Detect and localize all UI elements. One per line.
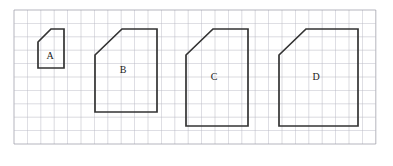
graph-paper-figure: ABCD	[0, 0, 393, 166]
shape-b-label: B	[120, 64, 127, 75]
shape-a-label: A	[46, 50, 54, 61]
shape-d-label: D	[312, 71, 319, 82]
grid-layer	[14, 10, 376, 144]
shape-a-outline	[38, 29, 64, 68]
shapes-layer: ABCD	[38, 29, 358, 126]
shape-c-label: C	[211, 71, 218, 82]
figure-container: ABCD	[0, 0, 393, 166]
